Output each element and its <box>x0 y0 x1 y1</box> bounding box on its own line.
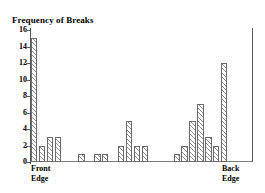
histogram-chart: Frequency of Breaks 0246810121416 Front … <box>0 0 265 193</box>
plot-area <box>30 30 252 162</box>
bar <box>142 146 148 163</box>
front-edge-line-2: Edge <box>31 174 50 184</box>
bar <box>221 63 227 162</box>
bar <box>118 146 124 163</box>
bar <box>181 146 187 163</box>
bar <box>102 154 108 162</box>
bar <box>55 137 61 162</box>
y-tick-mark <box>26 162 30 163</box>
front-edge-line-1: Front <box>31 164 50 174</box>
bar <box>174 154 180 162</box>
back-edge-line-2: Edge <box>222 174 239 184</box>
back-edge-line-1: Back <box>222 164 239 174</box>
bar <box>39 146 45 163</box>
x-axis-back-edge-label: Back Edge <box>222 164 239 184</box>
bar <box>78 154 84 162</box>
bar <box>197 104 203 162</box>
chart-title: Frequency of Breaks <box>12 15 94 25</box>
bar <box>47 137 53 162</box>
bar <box>134 146 140 163</box>
bar <box>94 154 100 162</box>
bar <box>126 121 132 162</box>
bar <box>31 38 37 162</box>
plot-frame-right-line <box>252 28 253 162</box>
bar <box>189 121 195 162</box>
x-axis-front-edge-label: Front Edge <box>31 164 50 184</box>
bar <box>205 137 211 162</box>
bar <box>213 146 219 163</box>
